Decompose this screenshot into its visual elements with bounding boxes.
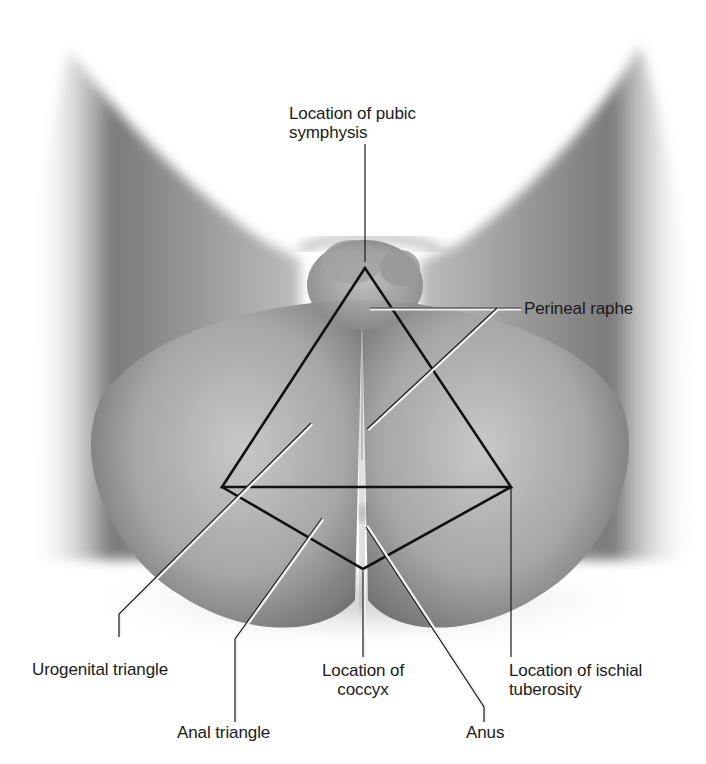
label-ischial-tuberosity: Location of ischial tuberosity: [509, 661, 642, 699]
label-urogenital-triangle: Urogenital triangle: [32, 660, 168, 679]
label-pubic-symphysis: Location of pubic symphysis: [289, 104, 416, 142]
label-perineal-raphe: Perineal raphe: [524, 299, 633, 318]
label-anal-triangle: Anal triangle: [177, 723, 270, 742]
leader-coccyx: [363, 571, 364, 657]
label-anus: Anus: [466, 723, 504, 742]
anus-mark: [359, 504, 367, 522]
label-coccyx: Location of coccyx: [302, 661, 424, 699]
